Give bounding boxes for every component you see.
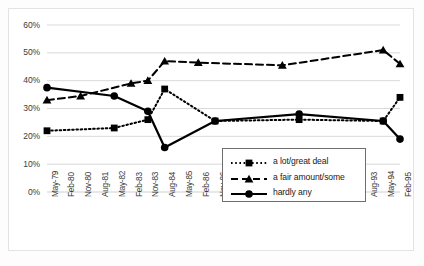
data-point-square bbox=[161, 86, 168, 93]
x-axis-tick-label: Aug-93 bbox=[370, 172, 379, 197]
y-axis-tick-label: 0% bbox=[8, 187, 40, 197]
legend-symbol-circle bbox=[229, 186, 269, 198]
x-axis-tick-label: Nov-83 bbox=[151, 172, 160, 197]
data-point-circle bbox=[161, 144, 169, 152]
y-axis-tick-label: 60% bbox=[8, 20, 40, 30]
legend-symbol-square bbox=[229, 155, 269, 167]
data-point-circle bbox=[396, 135, 404, 143]
data-point-square bbox=[44, 127, 51, 134]
data-point-circle bbox=[211, 117, 219, 125]
x-axis-tick-label: Nov-80 bbox=[84, 172, 93, 197]
series-line-circle bbox=[47, 88, 400, 148]
legend-label: a fair amount/some bbox=[273, 172, 345, 182]
x-axis-tick-label: Aug-84 bbox=[168, 172, 177, 197]
x-axis-tick-label: May-85 bbox=[185, 171, 194, 197]
chart-legend: a lot/great deala fair amount/somehardly… bbox=[222, 148, 366, 202]
y-axis-tick-label: 30% bbox=[8, 103, 40, 113]
x-axis-tick-label: Feb-95 bbox=[404, 172, 413, 197]
chart-screenshot: 0%10%20%30%40%50%60% May-79Feb-80Nov-80A… bbox=[0, 0, 424, 266]
x-axis-tick-label: Feb-80 bbox=[67, 172, 76, 197]
data-point-circle bbox=[379, 117, 387, 125]
legend-label: hardly any bbox=[273, 187, 312, 197]
y-axis-tick-label: 20% bbox=[8, 131, 40, 141]
x-axis-tick-label: Feb-86 bbox=[202, 172, 211, 197]
x-axis-tick-label: May-79 bbox=[51, 171, 60, 197]
y-axis-tick-label: 10% bbox=[8, 159, 40, 169]
data-point-circle bbox=[144, 107, 152, 115]
data-point-circle bbox=[110, 92, 118, 100]
y-axis-tick-label: 50% bbox=[8, 47, 40, 57]
legend-item: a fair amount/some bbox=[229, 170, 345, 184]
legend-label: a lot/great deal bbox=[273, 156, 328, 166]
x-axis-tick-label: Aug-81 bbox=[101, 172, 110, 197]
series-line-triangle bbox=[47, 50, 400, 100]
legend-item: a lot/great deal bbox=[229, 154, 328, 168]
chart-plot-area bbox=[0, 0, 424, 266]
data-point-square bbox=[111, 125, 118, 132]
x-axis-tick-label: May-94 bbox=[387, 171, 396, 197]
data-point-circle bbox=[43, 84, 51, 92]
legend-item: hardly any bbox=[229, 185, 312, 199]
x-axis-tick-label: Feb-83 bbox=[135, 172, 144, 197]
x-axis-tick-label: May-82 bbox=[118, 171, 127, 197]
data-point-square bbox=[397, 94, 404, 101]
y-axis-tick-label: 40% bbox=[8, 75, 40, 85]
legend-symbol-triangle bbox=[229, 171, 269, 183]
data-point-circle bbox=[295, 110, 303, 118]
